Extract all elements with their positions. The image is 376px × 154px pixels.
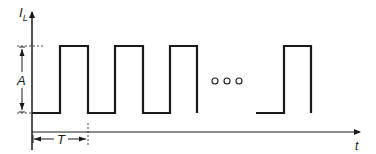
y-axis-label-subscript: L <box>23 13 28 23</box>
y-axis-label: IL <box>19 5 28 23</box>
amplitude-label: A <box>16 73 26 88</box>
continuation-ellipsis <box>212 78 242 84</box>
final-pulse-waveform <box>256 46 311 113</box>
period-label: T <box>57 132 66 147</box>
pulse-diagram: IL t A T <box>0 0 376 154</box>
pulse-train-waveform <box>32 46 197 113</box>
x-axis-label: t <box>355 139 359 153</box>
